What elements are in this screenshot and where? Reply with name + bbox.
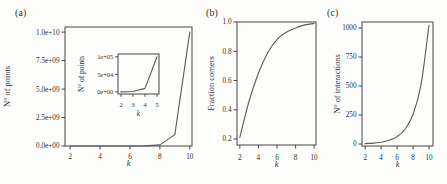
x-tick-label: 8 xyxy=(158,153,162,161)
scientific-figure: (a) (b) (c) 2468100.0e+002.5e+095.0e+097… xyxy=(0,0,447,184)
y-tick-label: 0.8 xyxy=(223,48,232,56)
panel-a-chart: 2468100.0e+002.5e+095.0e+097.5e+091.0e+1… xyxy=(3,27,194,168)
panel-c-chart: 24681002505007501000N° of interactionsk xyxy=(333,22,433,169)
y-tick-label: 5.0e+09 xyxy=(36,86,60,94)
x-tick-label: 8 xyxy=(411,154,415,162)
x-tick-label: 3 xyxy=(131,101,134,108)
x-axis-title: k xyxy=(275,160,279,169)
y-tick-label: 0e+00 xyxy=(97,88,113,95)
data-curve xyxy=(121,57,157,92)
y-axis-title: N° of points xyxy=(77,56,86,92)
y-axis-title: N° of interactions xyxy=(333,54,342,114)
y-tick-label: 1.0e+10 xyxy=(36,29,60,37)
y-tick-label: 0.4 xyxy=(223,106,232,114)
y-tick-label: 750 xyxy=(346,53,357,61)
x-tick-label: 8 xyxy=(294,154,298,162)
y-tick-label: 0.2 xyxy=(223,135,232,143)
x-tick-label: 2 xyxy=(119,101,122,108)
x-tick-label: 2 xyxy=(363,154,367,162)
plot-frame xyxy=(362,22,433,146)
plot-frame xyxy=(118,54,159,94)
y-tick-label: 7.5e+09 xyxy=(36,57,60,65)
x-tick-label: 2 xyxy=(68,153,72,161)
data-curve xyxy=(365,25,429,143)
y-tick-label: 0 xyxy=(353,140,357,148)
x-tick-label: 4 xyxy=(98,153,102,161)
x-tick-label: 2 xyxy=(238,154,242,162)
x-axis-title: k xyxy=(396,160,400,169)
figure-svg: 2468100.0e+002.5e+095.0e+097.5e+091.0e+1… xyxy=(0,0,447,184)
x-tick-label: 4 xyxy=(379,154,383,162)
y-tick-label: 1000 xyxy=(342,24,357,32)
x-axis-title: k xyxy=(137,109,141,118)
x-tick-label: 4 xyxy=(143,101,147,108)
y-tick-label: 2.5e+09 xyxy=(36,114,60,122)
panel-a_inset-chart: 23450e+005e+041e+05N° of pointsk xyxy=(77,53,159,118)
data-curve xyxy=(240,24,314,138)
y-axis-title: Fraction corners xyxy=(207,56,216,111)
x-tick-label: 10 xyxy=(311,154,319,162)
y-tick-label: 5e+04 xyxy=(97,71,114,78)
y-tick-label: 0.6 xyxy=(223,77,232,85)
y-tick-label: 1.0 xyxy=(223,18,232,26)
x-axis-title: k xyxy=(127,159,131,168)
x-tick-label: 4 xyxy=(257,154,261,162)
data-curve xyxy=(70,32,190,146)
y-tick-label: 250 xyxy=(346,111,357,119)
y-tick-label: 0.0e+00 xyxy=(36,142,60,150)
panel-b-chart: 2468100.20.40.60.81.0Fraction cornersk xyxy=(207,18,318,169)
x-tick-label: 5 xyxy=(155,101,158,108)
y-tick-label: 500 xyxy=(346,82,357,90)
x-tick-label: 10 xyxy=(425,154,433,162)
y-tick-label: 1e+05 xyxy=(97,53,113,60)
y-axis-title: N° of points xyxy=(3,66,12,107)
x-tick-label: 10 xyxy=(186,153,194,161)
